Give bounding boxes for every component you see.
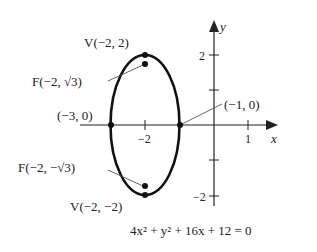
y-axis-label: y (218, 19, 226, 34)
leader-right-vertex (180, 104, 222, 125)
ellipse-diagram: −2 1 x 2 −2 y V(−2, 2) F(−2, √3) (−3, 0)… (0, 0, 317, 252)
x-tick-label--2: −2 (138, 132, 151, 146)
label-left-vertex: (−3, 0) (57, 108, 93, 123)
label-top-focus: F(−2, √3) (32, 74, 82, 89)
x-axis-arrow-icon (266, 120, 278, 130)
point-top-focus (142, 61, 148, 67)
y-tick-label-2: 2 (199, 49, 205, 63)
label-bottom-focus: F(−2, −√3) (18, 160, 75, 175)
equation: 4x² + y² + 16x + 12 = 0 (130, 223, 252, 238)
point-top-vertex (142, 52, 148, 58)
label-right-vertex: (−1, 0) (224, 97, 260, 112)
x-tick-label-1: 1 (245, 132, 251, 146)
point-right-vertex (177, 122, 183, 128)
y-tick-label--2: −2 (193, 190, 206, 204)
y-axis-arrow-icon (209, 20, 219, 32)
x-axis-label: x (270, 131, 277, 146)
y-axis: 2 −2 y (193, 19, 226, 206)
point-bottom-focus (142, 183, 148, 189)
point-left-vertex (108, 122, 114, 128)
label-bottom-vertex: V(−2, −2) (70, 199, 122, 214)
point-bottom-vertex (142, 192, 148, 198)
label-top-vertex: V(−2, 2) (84, 35, 129, 50)
